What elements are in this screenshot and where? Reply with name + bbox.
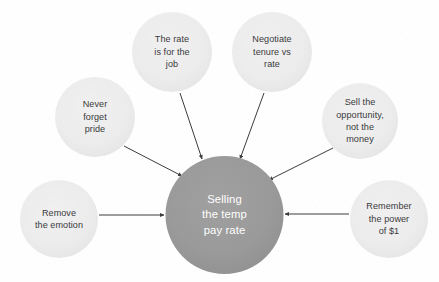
- node-circle-never-forget-pride[interactable]: [55, 77, 135, 157]
- diagram-canvas: Never forget pride The rate is for the j…: [0, 0, 439, 282]
- arrow-sell-the-opportunity-to-hub: [269, 148, 333, 180]
- node-circle-hub[interactable]: [166, 156, 284, 274]
- node-circle-remember-the-power-of-1[interactable]: [350, 180, 428, 258]
- arrow-the-rate-is-for-the-job-to-hub: [180, 93, 202, 159]
- node-circle-remove-the-emotion[interactable]: [20, 180, 98, 258]
- diagram-svg: [0, 0, 439, 282]
- arrow-never-forget-pride-to-hub: [124, 146, 182, 176]
- arrow-negotiate-tenure-vs-rate-to-hub: [240, 93, 264, 159]
- node-circle-sell-the-opportunity-not-the-money[interactable]: [322, 83, 398, 159]
- node-circle-negotiate-tenure-vs-rate[interactable]: [232, 12, 312, 92]
- node-circle-the-rate-is-for-the-job[interactable]: [132, 12, 212, 92]
